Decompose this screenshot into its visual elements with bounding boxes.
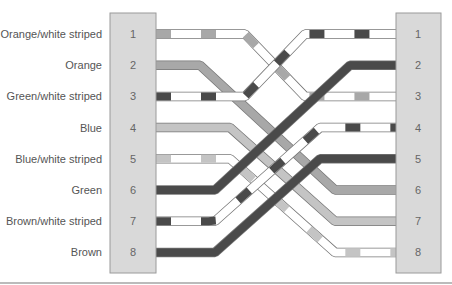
wire-color-label: Blue	[80, 122, 102, 134]
left-pin-number: 4	[130, 122, 136, 134]
wire-color-label: Blue/white striped	[15, 153, 102, 165]
wire-color-label: Green	[71, 184, 102, 196]
right-pin-number: 5	[415, 153, 421, 165]
left-pin-number: 7	[130, 215, 136, 227]
right-pin-number: 7	[415, 215, 421, 227]
wire-color-label: Orange/white striped	[1, 28, 103, 40]
wires-layer	[156, 34, 396, 252]
left-pin-number: 6	[130, 184, 136, 196]
wire-color-label: Orange	[65, 59, 102, 71]
wire-color-label: Green/white striped	[7, 90, 102, 102]
left-pin-number: 2	[130, 59, 136, 71]
left-labels: Orange/white stripedOrangeGreen/white st…	[1, 28, 103, 258]
right-pin-number: 3	[415, 90, 421, 102]
right-pin-number: 6	[415, 184, 421, 196]
left-connector	[110, 13, 156, 273]
wire-color-label: Brown	[71, 246, 102, 258]
left-pin-number: 8	[130, 246, 136, 258]
right-pin-number: 1	[415, 28, 421, 40]
wire-color-label: Brown/white striped	[6, 215, 102, 227]
left-pin-number: 5	[130, 153, 136, 165]
left-pin-number: 1	[130, 28, 136, 40]
right-pin-number: 8	[415, 246, 421, 258]
right-pin-number: 2	[415, 59, 421, 71]
right-pin-number: 4	[415, 122, 421, 134]
right-connector	[396, 13, 441, 273]
crossover-wiring-diagram: Orange/white stripedOrangeGreen/white st…	[0, 0, 452, 285]
left-pin-number: 3	[130, 90, 136, 102]
